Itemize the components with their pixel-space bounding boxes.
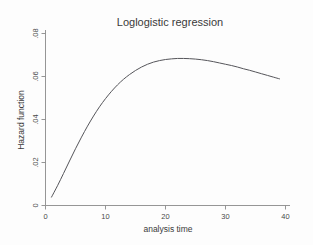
chart-container: Loglogistic regression 0 .02 .04 .06 .08… — [0, 0, 313, 245]
x-tick-label-1: 10 — [101, 212, 109, 221]
y-tick-label-1: .02 — [31, 157, 40, 167]
y-tick-label-4: .08 — [31, 28, 40, 38]
loglogistic-hazard-plot: Loglogistic regression 0 .02 .04 .06 .08… — [0, 0, 313, 245]
x-tick-label-0: 0 — [43, 212, 47, 221]
chart-title: Loglogistic regression — [117, 16, 223, 28]
y-tick-label-3: .06 — [31, 71, 40, 81]
x-tick-label-3: 30 — [221, 212, 229, 221]
y-tick-label-2: .04 — [31, 114, 40, 124]
y-axis-title: Hazard function — [16, 90, 26, 150]
x-axis-title: analysis time — [143, 224, 192, 234]
plot-background — [0, 0, 313, 245]
x-tick-label-4: 40 — [281, 212, 289, 221]
x-tick-label-2: 20 — [161, 212, 169, 221]
y-tick-label-0: 0 — [31, 203, 40, 207]
